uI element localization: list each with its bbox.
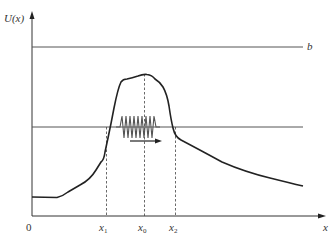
x-axis-arrow-icon bbox=[318, 214, 326, 219]
origin-label: 0 bbox=[26, 221, 32, 233]
tick-x1-label: x1 bbox=[98, 221, 108, 235]
potential-energy-diagram: U(x) b 0 x x1 x0 x2 bbox=[0, 0, 336, 235]
axes bbox=[30, 11, 327, 219]
propagation-arrow-head-icon bbox=[155, 139, 162, 144]
y-axis-label: U(x) bbox=[4, 12, 24, 25]
level-b-label: b bbox=[307, 40, 313, 52]
potential-curve bbox=[32, 74, 303, 197]
x-axis-label: x bbox=[322, 221, 328, 233]
tick-x0-label: x0 bbox=[137, 221, 147, 235]
tick-x2-label: x2 bbox=[168, 221, 178, 235]
y-axis-arrow-icon bbox=[30, 11, 35, 19]
